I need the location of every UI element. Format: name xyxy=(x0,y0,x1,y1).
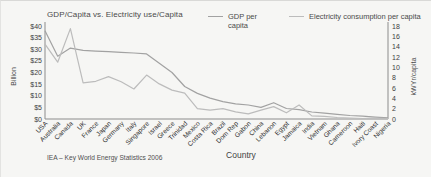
right-axis-tick-label: 10 xyxy=(392,64,400,71)
left-axis-tick-label: $10 xyxy=(30,92,42,99)
right-axis-tick-label: 14 xyxy=(392,43,400,50)
right-axis-tick-label: 16 xyxy=(392,33,400,40)
source-note: IEA – Key World Energy Statistics 2006 xyxy=(47,154,162,161)
electricity-line xyxy=(45,29,388,119)
left-axis-tick-label: $25 xyxy=(30,57,42,64)
chart-container: GDP/Capita vs. Electricity use/Capita GD… xyxy=(0,0,431,177)
left-axis-tick-label: $5 xyxy=(34,104,42,111)
right-axis-tick-label: 0 xyxy=(392,116,396,123)
left-axis-tick-label: $35 xyxy=(30,34,42,41)
right-axis-tick-label: 8 xyxy=(392,74,396,81)
left-axis-tick-label: $40 xyxy=(30,23,42,30)
gdp-line xyxy=(45,31,388,118)
right-axis-tick-label: 2 xyxy=(392,105,396,112)
right-axis-tick-label: 4 xyxy=(392,95,396,102)
left-axis-tick-label: $30 xyxy=(30,46,42,53)
left-axis-tick-label: $20 xyxy=(30,69,42,76)
right-axis-tick-label: 18 xyxy=(392,23,400,30)
left-axis-tick-label: $15 xyxy=(30,81,42,88)
right-axis-tick-label: 12 xyxy=(392,54,400,61)
x-axis-title: Country xyxy=(201,150,281,160)
right-axis-tick-label: 6 xyxy=(392,85,396,92)
